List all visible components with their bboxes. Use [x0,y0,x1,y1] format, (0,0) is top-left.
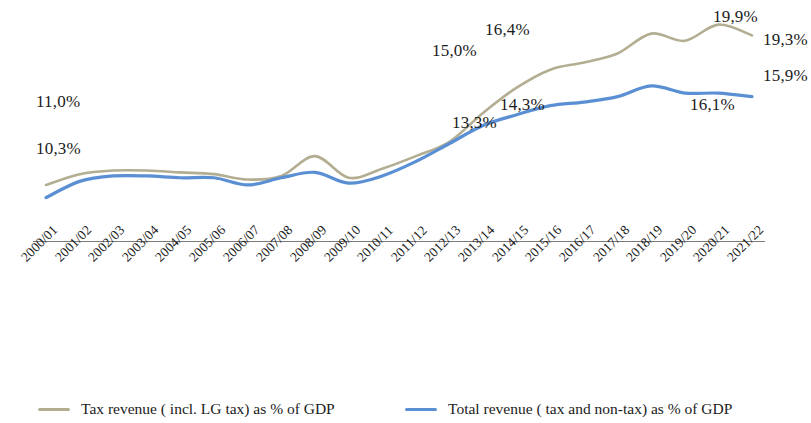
revenue-line-chart: 11,0%10,3%15,0%16,4%13,3%14,3%19,9%19,3%… [0,0,811,423]
chart-legend: Tax revenue ( incl. LG tax) as % of GDP … [0,396,811,422]
data-label: 13,3% [452,113,497,133]
data-label: 14,3% [500,95,545,115]
data-label: 16,1% [690,95,735,115]
legend-swatch-tax-revenue [38,408,70,411]
series-line-total-revenue [46,86,752,198]
data-label: 15,9% [763,66,808,86]
series-lines [46,25,752,198]
series-line-tax-revenue [46,25,752,185]
legend-swatch-total-revenue [405,408,437,411]
data-label: 16,4% [485,20,530,40]
legend-label-total-revenue: Total revenue ( tax and non-tax) as % of… [448,400,732,418]
chart-plot-area [0,0,811,423]
legend-entry-tax-revenue: Tax revenue ( incl. LG tax) as % of GDP [38,396,335,422]
data-label: 19,3% [763,30,808,50]
data-label: 11,0% [36,92,80,112]
data-label: 15,0% [432,41,477,61]
legend-label-tax-revenue: Tax revenue ( incl. LG tax) as % of GDP [81,400,335,418]
legend-entry-total-revenue: Total revenue ( tax and non-tax) as % of… [405,396,732,422]
data-label: 19,9% [713,7,758,27]
data-label: 10,3% [36,139,81,159]
